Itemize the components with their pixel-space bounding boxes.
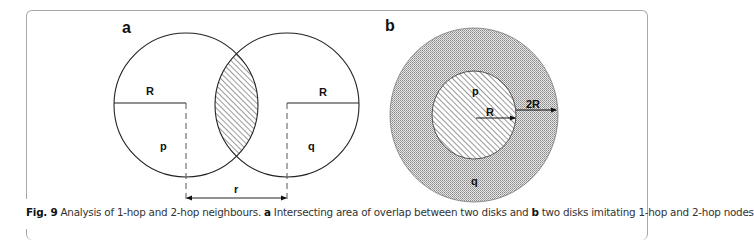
- figure-number: Fig. 9: [26, 206, 57, 218]
- panel-b: b p R 2R q: [385, 17, 558, 202]
- outer-radius-label: 2R: [526, 98, 540, 110]
- distance-label: r: [234, 183, 239, 195]
- panel-b-label: b: [385, 17, 395, 34]
- figure-caption: Fig. 9 Analysis of 1-hop and 2-hop neigh…: [26, 206, 636, 218]
- outer-node-q-label: q: [471, 175, 478, 187]
- caption-panel-b: b: [532, 206, 539, 218]
- radius-right-label: R: [319, 86, 327, 98]
- radius-left-label: R: [146, 85, 154, 97]
- caption-panel-a: a: [264, 206, 271, 218]
- caption-text-2: Intersecting area of overlap between two…: [271, 206, 532, 218]
- panel-a: a R R p q r: [114, 19, 359, 199]
- caption-text-3: two disks imitating 1-hop and 2-hop node…: [539, 206, 754, 218]
- panel-a-label: a: [122, 19, 131, 36]
- caption-text-1: Analysis of 1-hop and 2-hop neighbours.: [57, 206, 264, 218]
- inner-node-p-label: p: [472, 85, 479, 97]
- node-q-label: q: [308, 140, 315, 152]
- node-p-label: p: [160, 140, 167, 152]
- inner-radius-label: R: [486, 106, 494, 118]
